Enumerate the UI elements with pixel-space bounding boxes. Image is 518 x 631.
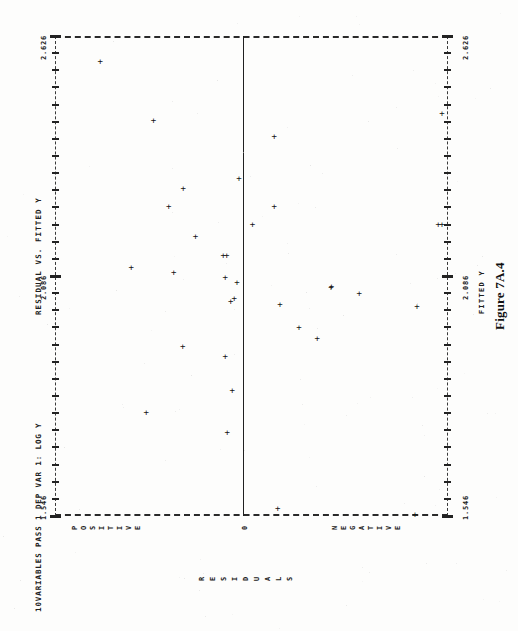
axis-tick bbox=[52, 86, 59, 88]
scan-speckle bbox=[226, 263, 227, 264]
label-letter: T bbox=[107, 524, 115, 533]
data-point-marker bbox=[179, 343, 186, 350]
label-letter: O bbox=[80, 524, 88, 533]
scan-speckle bbox=[368, 121, 369, 122]
scan-speckle bbox=[437, 278, 438, 279]
scan-speckle bbox=[3, 536, 4, 537]
scan-speckle bbox=[287, 127, 288, 128]
data-point-marker bbox=[249, 221, 256, 228]
scan-speckle bbox=[151, 330, 152, 331]
scan-speckle bbox=[191, 375, 192, 376]
axis-tick bbox=[52, 138, 59, 140]
ytick-label-mid-right: 2.086 bbox=[462, 275, 470, 300]
scan-speckle bbox=[197, 113, 198, 114]
data-point-marker bbox=[180, 185, 187, 192]
label-letter: D bbox=[242, 574, 250, 585]
scan-speckle bbox=[464, 373, 465, 374]
label-letter: S bbox=[220, 574, 228, 585]
data-point-marker bbox=[97, 58, 104, 65]
scan-speckle bbox=[304, 424, 305, 425]
scan-speckle bbox=[172, 101, 173, 102]
data-point-marker bbox=[223, 252, 230, 259]
axis-tick bbox=[444, 446, 451, 448]
label-letter: T bbox=[367, 524, 375, 533]
scan-speckle bbox=[179, 409, 180, 410]
axis-tick bbox=[52, 412, 59, 414]
scan-speckle bbox=[362, 567, 363, 568]
scan-speckle bbox=[441, 276, 442, 277]
data-point-marker bbox=[314, 335, 321, 342]
data-point-marker bbox=[234, 279, 241, 286]
data-point-marker bbox=[274, 505, 281, 512]
scan-speckle bbox=[309, 457, 310, 458]
scan-speckle bbox=[457, 181, 458, 182]
axis-tick bbox=[444, 155, 451, 157]
label-letter: L bbox=[275, 574, 283, 585]
plot-frame-bottom bbox=[55, 514, 448, 516]
axis-tick bbox=[444, 309, 451, 311]
category-label-negative: NEGATIVE bbox=[330, 524, 402, 532]
label-letter: R bbox=[198, 574, 206, 585]
data-point-marker bbox=[277, 301, 284, 308]
scan-speckle bbox=[441, 172, 442, 173]
axis-tick bbox=[52, 498, 59, 500]
scan-speckle bbox=[144, 363, 145, 364]
axis-tick bbox=[444, 206, 451, 208]
axis-tick bbox=[52, 429, 59, 431]
scan-speckle bbox=[79, 509, 80, 510]
label-letter: N bbox=[331, 524, 339, 533]
axis-tick bbox=[52, 52, 59, 54]
axis-tick bbox=[444, 344, 451, 346]
axis-tick bbox=[52, 206, 59, 208]
axis-tick bbox=[444, 464, 451, 466]
scan-speckle bbox=[116, 290, 117, 291]
scan-speckle bbox=[179, 577, 180, 578]
axis-tick bbox=[50, 275, 61, 278]
scan-speckle bbox=[422, 425, 423, 426]
data-point-marker bbox=[271, 203, 278, 210]
scan-speckle bbox=[165, 460, 166, 461]
axis-tick bbox=[444, 498, 451, 500]
scan-speckle bbox=[396, 107, 397, 108]
scan-speckle bbox=[234, 309, 235, 310]
scan-speckle bbox=[288, 253, 289, 254]
scan-speckle bbox=[426, 563, 427, 564]
scan-speckle bbox=[306, 292, 307, 293]
axis-tick bbox=[444, 395, 451, 397]
axis-tick bbox=[444, 326, 451, 328]
axis-tick bbox=[444, 292, 451, 294]
scan-speckle bbox=[397, 148, 398, 149]
label-letter: I bbox=[98, 524, 106, 533]
label-letter: V bbox=[385, 524, 393, 533]
axis-tick bbox=[52, 361, 59, 363]
data-point-marker bbox=[165, 203, 172, 210]
scan-speckle bbox=[299, 16, 300, 17]
axis-tick bbox=[52, 189, 59, 191]
axis-tick bbox=[52, 224, 59, 226]
category-label-zero: 0 bbox=[240, 524, 249, 532]
scan-speckle bbox=[199, 590, 200, 591]
scan-speckle bbox=[32, 592, 33, 593]
scan-speckle bbox=[34, 221, 35, 222]
axis-tick bbox=[52, 258, 59, 260]
axis-tick bbox=[444, 361, 451, 363]
label-letter: P bbox=[71, 524, 79, 533]
scan-speckle bbox=[412, 397, 413, 398]
scan-speckle bbox=[322, 173, 323, 174]
axis-tick bbox=[52, 464, 59, 466]
scan-speckle bbox=[54, 323, 55, 324]
scan-speckle bbox=[496, 497, 497, 498]
scan-speckle bbox=[487, 413, 488, 414]
data-point-marker bbox=[414, 303, 421, 310]
scan-speckle bbox=[410, 283, 411, 284]
scan-speckle bbox=[500, 13, 501, 14]
scan-speckle bbox=[89, 166, 90, 167]
residuals-axis-label: RESIDUALS bbox=[196, 575, 295, 583]
data-point-marker bbox=[224, 429, 231, 436]
scan-speckle bbox=[369, 572, 370, 573]
scan-speckle bbox=[456, 563, 457, 564]
scan-speckle bbox=[243, 152, 244, 153]
axis-tick bbox=[52, 395, 59, 397]
label-letter: A bbox=[358, 524, 366, 533]
axis-tick bbox=[444, 412, 451, 414]
